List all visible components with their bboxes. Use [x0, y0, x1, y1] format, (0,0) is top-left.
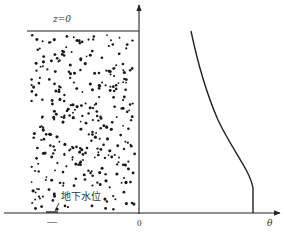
soil-particles	[30, 34, 136, 211]
water-table-label: 地下水位	[60, 192, 102, 202]
theta-axis-label: θ	[267, 219, 272, 228]
origin-label: 0	[137, 219, 142, 228]
moisture-profile-curve	[191, 31, 253, 213]
soil-moisture-profile-diagram	[0, 0, 286, 235]
water-table-symbol: —	[47, 217, 57, 227]
ground-surface-label: z=0	[53, 15, 71, 24]
